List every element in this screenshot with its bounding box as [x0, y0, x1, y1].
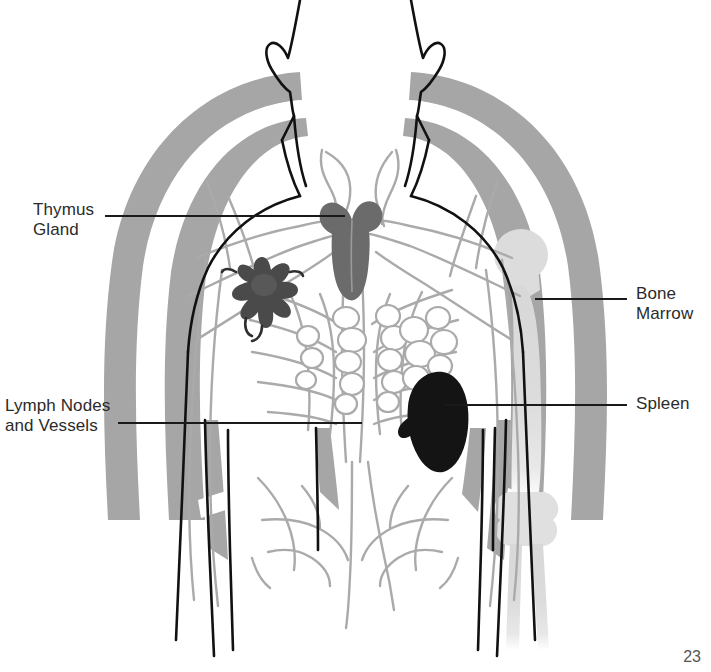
anatomy-illustration	[0, 0, 711, 672]
spleen-shape	[407, 372, 468, 473]
label-bone-marrow: Bone Marrow	[636, 284, 693, 324]
figure-page: Thymus Gland Lymph Nodes and Vessels Bon…	[0, 0, 711, 672]
lymph-node-organ	[222, 257, 303, 341]
page-number: 23	[683, 648, 701, 666]
left-torso-wedge	[316, 428, 339, 510]
thymus-midline	[351, 220, 352, 292]
lymph-node-center	[251, 274, 277, 296]
label-lymph-nodes-and-vessels: Lymph Nodes and Vessels	[5, 396, 110, 436]
label-thymus-gland: Thymus Gland	[33, 200, 94, 240]
label-spleen: Spleen	[636, 394, 690, 414]
